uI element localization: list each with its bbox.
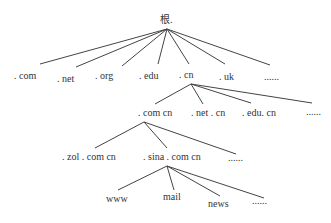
node-more-com-cn: ......	[228, 152, 243, 163]
node-mail: mail	[163, 191, 181, 202]
root-node: 根.	[160, 14, 173, 25]
node-more-tld: ......	[264, 71, 279, 82]
node-com-cn: . com cn	[138, 107, 172, 118]
node-zol-com-cn: . zol . com cn	[62, 151, 116, 162]
node-more-cn: ......	[306, 106, 321, 117]
node-uk: . uk	[219, 71, 234, 82]
node-news: news	[208, 198, 229, 209]
node-net: . net	[57, 73, 74, 84]
node-more-sina: ......	[252, 195, 267, 206]
dns-tree-diagram: 根. . com . net . org . edu . cn . uk ...…	[0, 0, 331, 223]
node-sina-com-cn: . sina . com cn	[143, 151, 201, 162]
node-cn: . cn	[179, 69, 193, 80]
node-com: . com	[14, 70, 36, 81]
node-org: . org	[95, 70, 113, 81]
node-edu-cn: . edu. cn	[242, 107, 276, 118]
node-www: www	[106, 193, 128, 204]
node-net-cn: . net . cn	[191, 107, 225, 118]
node-edu: . edu	[139, 70, 158, 81]
